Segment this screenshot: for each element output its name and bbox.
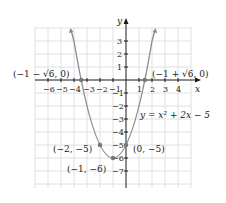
svg-text:−3: −3 (83, 85, 95, 94)
point-vertex (111, 156, 115, 160)
graph: y x −6 −5 −4 −3 −2 −1 1 2 3 4 3 2 1 −1 −… (0, 0, 226, 203)
y-tick-labels: 3 2 1 −1 −2 −3 −4 −5 −6 −7 (112, 37, 124, 176)
svg-text:2: 2 (117, 50, 122, 59)
curve-arrow-right-icon (153, 28, 158, 33)
svg-text:−4: −4 (112, 128, 124, 137)
svg-text:4: 4 (176, 85, 181, 94)
svg-text:−5: −5 (112, 141, 124, 150)
point-neg2-neg5 (98, 143, 102, 147)
label-left-root: (−1 − √6, 0) (13, 69, 69, 79)
svg-text:2: 2 (150, 85, 155, 94)
svg-text:−7: −7 (112, 167, 124, 176)
svg-text:−2: −2 (112, 102, 124, 111)
svg-text:3: 3 (163, 85, 168, 94)
svg-text:−5: −5 (56, 85, 68, 94)
y-axis-label: y (116, 16, 123, 26)
svg-text:−1: −1 (112, 89, 124, 98)
label-vertex: (−1, −6) (67, 164, 106, 174)
point-left-root (79, 78, 83, 82)
point-0-neg5 (124, 143, 128, 147)
x-axis-label: x (195, 84, 200, 94)
svg-text:1: 1 (137, 85, 142, 94)
label-neg2-neg5: (−2, −5) (53, 144, 92, 154)
svg-text:−2: −2 (96, 85, 108, 94)
y-axis-arrow-icon (124, 18, 129, 24)
svg-text:1: 1 (117, 63, 122, 72)
equation-label: y = x² + 2x − 5 (139, 110, 210, 120)
curve-arrow-left-icon (69, 28, 74, 33)
label-0-neg5: (0, −5) (133, 144, 165, 154)
svg-text:−4: −4 (69, 85, 81, 94)
label-right-root: (−1 + √6, 0) (152, 69, 208, 79)
svg-text:−3: −3 (112, 115, 124, 124)
point-right-root (143, 78, 147, 82)
svg-text:3: 3 (117, 37, 122, 46)
svg-text:−6: −6 (43, 85, 55, 94)
